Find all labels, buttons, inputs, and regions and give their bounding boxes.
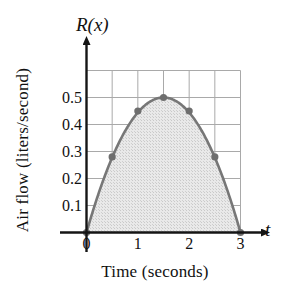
x-tick-label: 2 bbox=[176, 236, 202, 252]
chart-figure: R(x) t 0.10.20.30.40.5 0123 Air flow (li… bbox=[0, 0, 287, 297]
x-axis-title: Time (seconds) bbox=[60, 262, 250, 282]
x-tick-label: 0 bbox=[74, 236, 100, 252]
x-tick-label: 1 bbox=[125, 236, 151, 252]
y-axis-title: Air flow (liters/second) bbox=[13, 35, 33, 265]
x-tick-label: 3 bbox=[228, 236, 254, 252]
x-axis-tick-labels: 0123 bbox=[0, 0, 287, 297]
